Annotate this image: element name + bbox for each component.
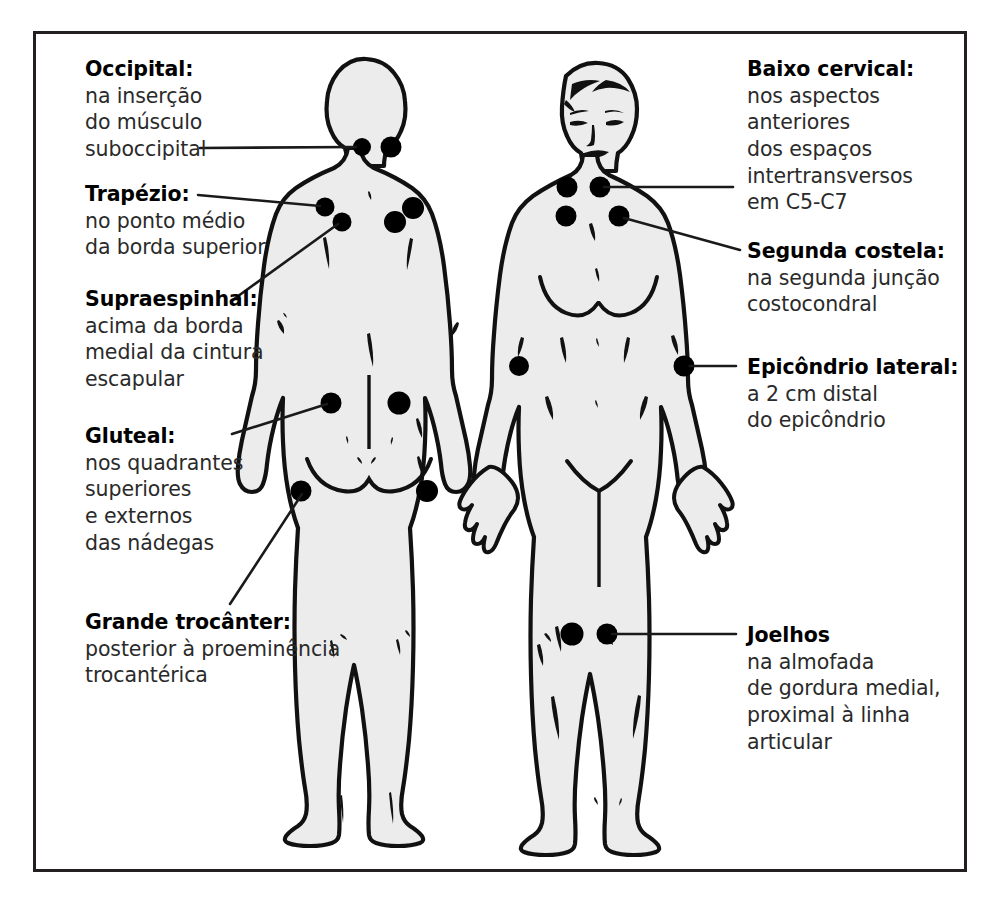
- point-supraspinatus-left: [333, 213, 352, 232]
- point-knee-left: [561, 623, 584, 646]
- anterior-right-hand: [674, 467, 733, 552]
- callout-joelhos-title: Joelhos: [747, 622, 962, 649]
- callout-joelhos-body: na almofada de gordura medial, proximal …: [747, 649, 962, 756]
- callout-gluteal-body: nos quadrantes superiores e externos das…: [85, 450, 285, 557]
- callout-baixo-cervical: Baixo cervical: nos aspectos anteriores …: [747, 56, 957, 216]
- callout-supraespinhal-body: acima da borda medial da cintura escapul…: [85, 313, 295, 393]
- tender-points-diagram: Occipital: na inserção do músculo subocc…: [0, 0, 1000, 900]
- callout-baixo-cervical-title: Baixo cervical:: [747, 56, 957, 83]
- callout-epicondrio-lateral: Epicôndrio lateral: a 2 cm distal do epi…: [747, 354, 962, 434]
- callout-epicondrio-lateral-body: a 2 cm distal do epicôndrio: [747, 381, 962, 434]
- anterior-figure: [459, 63, 732, 855]
- point-trapezius-right: [402, 197, 424, 219]
- callout-segunda-costela: Segunda costela: na segunda junção costo…: [747, 238, 957, 318]
- point-gluteal-left: [321, 393, 342, 414]
- callout-grande-trocanter: Grande trocânter: posterior à proeminênc…: [85, 609, 350, 689]
- callout-gluteal-title: Gluteal:: [85, 423, 285, 450]
- callout-trapezio-body: no ponto médio da borda superior: [85, 208, 285, 261]
- callout-gluteal: Gluteal: nos quadrantes superiores e ext…: [85, 423, 285, 556]
- point-occipital-right: [381, 137, 402, 158]
- callout-segunda-costela-body: na segunda junção costocondral: [747, 265, 957, 318]
- callout-supraespinhal: Supraespinhal: acima da borda medial da …: [85, 286, 295, 393]
- callout-trapezio: Trapézio: no ponto médio da borda superi…: [85, 181, 285, 261]
- callout-occipital-body: na inserção do músculo suboccipital: [85, 83, 255, 163]
- point-supraspinatus-right: [384, 211, 406, 233]
- callout-supraespinhal-title: Supraespinhal:: [85, 286, 295, 313]
- point-second-rib-left: [556, 206, 577, 227]
- callout-grande-trocanter-body: posterior à proeminência trocantérica: [85, 636, 350, 689]
- point-lateral-epicondyle-left: [509, 356, 529, 376]
- callout-epicondrio-lateral-title: Epicôndrio lateral:: [747, 354, 962, 381]
- callout-baixo-cervical-body: nos aspectos anteriores dos espaços inte…: [747, 83, 957, 216]
- point-gluteal-right: [388, 392, 411, 415]
- callout-trapezio-title: Trapézio:: [85, 181, 285, 208]
- callout-joelhos: Joelhos na almofada de gordura medial, p…: [747, 622, 962, 755]
- point-second-rib-right: [609, 206, 630, 227]
- point-trochanter-left: [291, 481, 312, 502]
- point-trochanter-right: [416, 480, 438, 502]
- callout-grande-trocanter-title: Grande trocânter:: [85, 609, 350, 636]
- callout-occipital: Occipital: na inserção do músculo subocc…: [85, 56, 255, 163]
- callout-segunda-costela-title: Segunda costela:: [747, 238, 957, 265]
- callout-occipital-title: Occipital:: [85, 56, 255, 83]
- point-low-cervical-left: [557, 177, 578, 198]
